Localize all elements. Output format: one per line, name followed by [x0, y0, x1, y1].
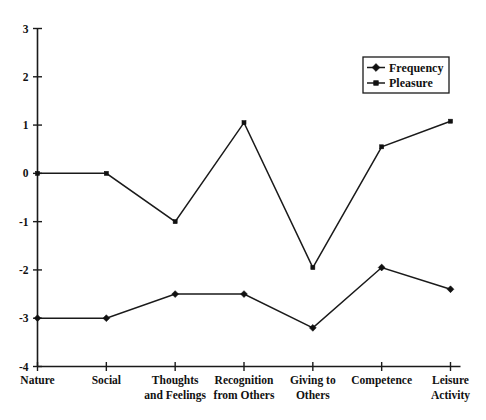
y-tick-label: 2 — [23, 71, 29, 83]
y-tick-label: 1 — [23, 119, 29, 131]
series-frequency — [34, 264, 454, 331]
x-tick-label: from Others — [214, 389, 275, 401]
data-point-marker-diamond — [103, 315, 110, 322]
data-point-marker-square — [104, 171, 108, 175]
x-tick-label: Social — [92, 374, 121, 386]
y-tick-label: -1 — [19, 216, 29, 228]
chart-legend: FrequencyPleasure — [363, 57, 449, 93]
data-point-marker-square — [311, 266, 315, 270]
data-point-marker-diamond — [447, 286, 454, 293]
x-tick-label: Competence — [351, 374, 412, 387]
x-tick-label: Activity — [431, 389, 470, 402]
data-point-marker-square — [173, 220, 177, 224]
series-line-pleasure — [38, 121, 451, 267]
x-tick-label: Others — [296, 389, 330, 401]
y-tick-label: 3 — [23, 23, 29, 35]
data-point-marker-diamond — [172, 291, 179, 298]
y-tick-label: 0 — [23, 167, 29, 179]
line-chart: 3210-1-2-3-4 NatureSocialThoughtsand Fee… — [0, 0, 486, 420]
y-tick-label: -3 — [19, 312, 29, 324]
data-point-marker-diamond — [34, 315, 41, 322]
x-tick-label: Giving to — [290, 374, 336, 387]
chart-container: 3210-1-2-3-4 NatureSocialThoughtsand Fee… — [0, 0, 486, 420]
data-series-group — [34, 119, 454, 331]
data-point-marker-diamond — [241, 291, 248, 298]
x-axis-label-group: NatureSocialThoughtsand FeelingsRecognit… — [20, 374, 470, 402]
x-tick-label: Recognition — [215, 374, 274, 387]
x-tick-label: and Feelings — [144, 389, 206, 402]
data-point-marker-square — [380, 145, 384, 149]
legend-label: Pleasure — [389, 76, 433, 90]
x-tick-label: Thoughts — [152, 374, 199, 387]
legend-label: Frequency — [389, 61, 443, 75]
x-tick-label: Nature — [20, 374, 54, 386]
data-point-marker-square — [374, 81, 379, 86]
series-pleasure — [36, 119, 453, 269]
data-point-marker-square — [449, 119, 453, 123]
data-point-marker-square — [36, 171, 40, 175]
data-point-marker-square — [242, 121, 246, 125]
y-tick-label: -4 — [19, 361, 29, 373]
x-axis — [38, 362, 461, 371]
x-tick-label: Leisure — [432, 374, 469, 386]
y-tick-label: -2 — [19, 264, 29, 276]
